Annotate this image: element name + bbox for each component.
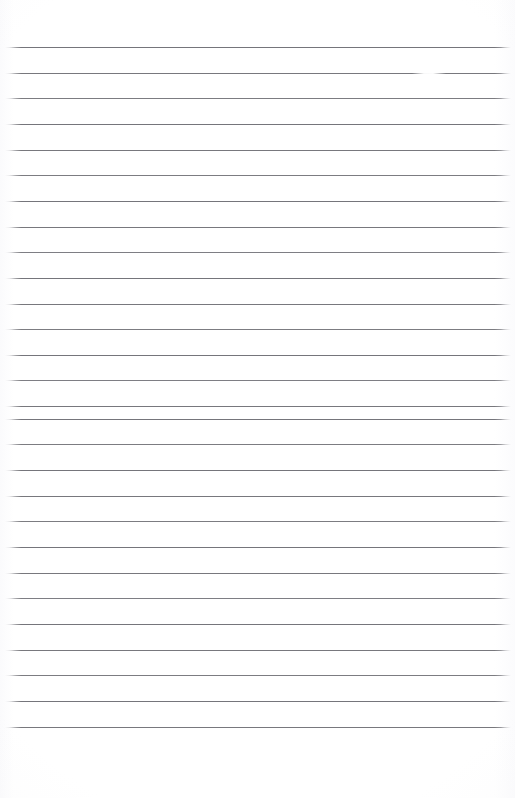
ruled-paper-page [0,0,515,798]
rule-line [5,175,511,176]
rule-line [5,444,511,445]
rule-line [5,201,511,202]
rule-line [5,521,511,522]
rule-line [5,419,511,420]
rule-line [5,573,511,574]
rule-line [5,150,511,151]
rule-line [5,470,511,471]
rule-line [5,727,511,728]
rule-line [5,278,511,279]
rule-line [5,124,511,125]
rule-line [5,701,511,702]
rule-line [5,304,511,305]
rule-line [5,598,511,599]
rule-line [5,406,511,407]
rule-line [5,73,511,74]
rule-line [5,496,511,497]
rule-line [5,98,511,99]
rule-line [5,227,511,228]
rule-line [5,624,511,625]
rule-line [5,329,511,330]
paper-grain-overlay [0,0,515,798]
rule-line [5,252,511,253]
rule-line [5,47,511,48]
rule-line [5,380,511,381]
rule-line [5,675,511,676]
rule-line [5,650,511,651]
rule-line [5,547,511,548]
rule-line [5,355,511,356]
